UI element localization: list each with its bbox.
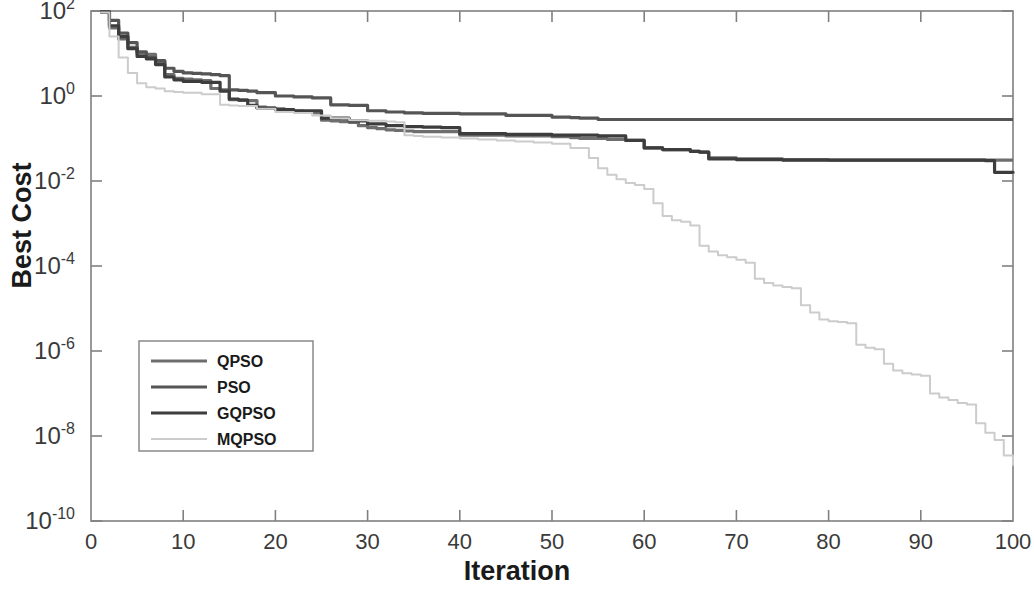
x-tick-label: 90 xyxy=(909,529,933,554)
legend-label-mqpso: MQPSO xyxy=(217,431,277,448)
x-tick-label: 10 xyxy=(171,529,195,554)
x-tick-label: 100 xyxy=(995,529,1032,554)
legend-label-gqpso: GQPSO xyxy=(217,405,276,422)
figure-canvas: 10210010-210-410-610-810-10 010203040506… xyxy=(0,0,1034,591)
y-tick-label: 10-4 xyxy=(34,250,75,279)
y-tick-label: 102 xyxy=(39,0,75,24)
y-tick-label: 10-6 xyxy=(34,335,75,364)
x-axis-title: Iteration xyxy=(0,556,1034,587)
x-tick-label: 60 xyxy=(632,529,656,554)
x-tick-label: 40 xyxy=(448,529,472,554)
y-tick-label: 10-10 xyxy=(25,505,75,534)
legend-label-qpso: QPSO xyxy=(217,353,263,370)
legend-label-pso: PSO xyxy=(217,379,251,396)
chart-legend: QPSOPSOGQPSOMQPSO xyxy=(139,341,313,451)
chart-plot: 10210010-210-410-610-810-10 010203040506… xyxy=(0,0,1034,591)
x-tick-label: 20 xyxy=(263,529,287,554)
series-line-gqpso xyxy=(100,12,1013,173)
y-axis-title: Best Cost xyxy=(7,146,38,306)
y-tick-label: 100 xyxy=(39,80,75,109)
series-line-qpso xyxy=(100,12,1013,160)
x-tick-label: 30 xyxy=(355,529,379,554)
y-tick-label: 10-2 xyxy=(34,165,75,194)
x-tick-label: 80 xyxy=(816,529,840,554)
x-tick-label: 70 xyxy=(724,529,748,554)
y-tick-label: 10-8 xyxy=(34,420,75,449)
x-tick-label: 50 xyxy=(540,529,564,554)
x-tick-label: 0 xyxy=(85,529,97,554)
series-line-pso xyxy=(100,12,1013,120)
